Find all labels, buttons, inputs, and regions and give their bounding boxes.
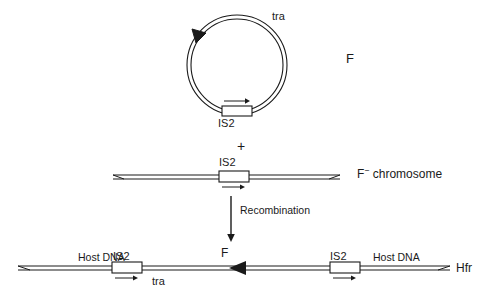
hfr-right-taper <box>438 266 450 270</box>
hfr-chromosome-group <box>18 261 450 281</box>
plasmid-is2-orientation-arrowhead <box>245 98 250 104</box>
hfr-host-dna-right-label: Host DNA <box>373 252 420 263</box>
hfr-chromosome-label: Hfr <box>456 262 472 274</box>
hfr-is2-right-orientation-arrowhead <box>351 275 356 280</box>
f-minus-is2-label: IS2 <box>219 157 236 168</box>
plasmid-direction-arrowhead <box>192 29 206 43</box>
hfr-is2-right-label: IS2 <box>330 251 347 262</box>
hfr-is2-right-box <box>330 262 360 273</box>
hfr-is2-left-label: IS2 <box>113 251 130 262</box>
plasmid-f-label: F <box>346 52 354 65</box>
recombination-arrow-head <box>227 234 235 242</box>
f-minus-left-taper <box>113 175 124 179</box>
f-minus-chromosome-label-superscript: − <box>364 165 369 175</box>
plasmid-is2-box <box>222 106 252 116</box>
f-minus-chromosome-label-suffix: chromosome <box>373 167 442 181</box>
hfr-integrated-f-label: F <box>221 247 228 259</box>
figure-canvas: tra F IS2 + IS2 F− chromosome Recombinat… <box>0 0 487 296</box>
hfr-is2-left-box <box>112 262 142 273</box>
hfr-transfer-arrowhead <box>229 261 246 275</box>
plasmid-outer-strand <box>187 15 287 115</box>
f-minus-is2-orientation-arrowhead <box>240 184 245 189</box>
f-minus-is2-box <box>219 171 249 182</box>
f-minus-chromosome-group <box>113 171 340 190</box>
f-minus-chromosome-label: F− chromosome <box>357 168 442 180</box>
hfr-tra-label: tra <box>152 276 165 287</box>
hfr-is2-left-orientation-arrowhead <box>133 275 138 280</box>
recombination-arrow-group <box>227 196 235 242</box>
plus-operator: + <box>237 139 245 153</box>
f-minus-right-taper <box>329 175 340 179</box>
plasmid-is2-label: IS2 <box>218 118 235 129</box>
plasmid-circle-group <box>187 15 287 120</box>
recombination-label: Recombination <box>240 205 310 216</box>
hfr-left-taper <box>18 266 30 270</box>
plasmid-tra-label: tra <box>272 11 285 22</box>
